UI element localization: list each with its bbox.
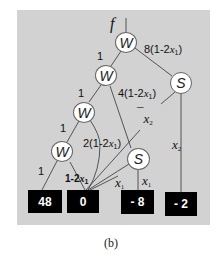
edge-s1-t0-a [161,92,175,104]
edge-label-w3-t0: 2(1-2x1) [83,138,121,150]
root-label-f: f [110,16,114,32]
edge-label-w2-w3: 1 [78,88,84,99]
node-w1: W [115,32,137,53]
edge-w3-w4 [67,121,79,142]
node-w2: W [95,65,117,86]
leaf-minus-8: - 8 [121,190,154,214]
node-w3: W [73,102,95,123]
edge-w2-w3 [89,85,101,102]
edge-label-w4-t48: 1 [38,166,44,177]
leaf-48: 48 [28,190,62,213]
node-s1: S [170,72,192,94]
node-w4: W [51,141,73,162]
edge-w4-t48 [42,161,57,190]
node-s2: S [127,148,150,170]
edge-label-s1-t0-x2bar: ¯x2 [137,112,153,127]
edge-w1-w2 [111,51,121,66]
leaf-minus-2: - 2 [165,192,197,216]
edge-label-w1-s1: 8(1-2x1) [144,44,182,56]
edges [0,0,222,256]
edge-label-s2-t0-x1: x1 [115,176,124,191]
edge-label-w2-t0: 4(1-2x1) [118,88,156,100]
edge-label-w4-t0: 1-2x1 [65,174,88,185]
edge-label-s2-tm8-x1: x1 [142,174,151,189]
edge-label-w1-w2: 1 [97,51,103,62]
figure-caption: (b) [104,236,118,251]
edge-w3-t0 [88,120,100,190]
leaf-0: 0 [67,190,99,213]
edge-label-w3-w4: 1 [60,123,66,134]
edge-label-s1-tm2-x2: x2 [172,138,181,153]
